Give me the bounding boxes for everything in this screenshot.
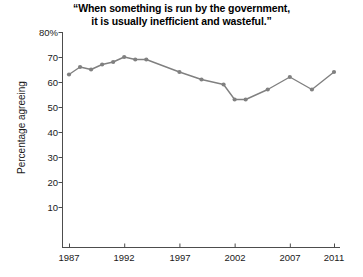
- chart-container: “When something is run by the government…: [0, 0, 363, 277]
- x-axis: [63, 244, 341, 248]
- data-point-markers: [67, 55, 336, 102]
- chart-plot-svg: [0, 0, 363, 277]
- data-point: [78, 65, 82, 69]
- data-point: [89, 67, 93, 71]
- data-point: [144, 57, 148, 61]
- data-point: [111, 60, 115, 64]
- data-point: [288, 75, 292, 79]
- data-point: [310, 87, 314, 91]
- data-point: [122, 55, 126, 59]
- data-point: [67, 72, 71, 76]
- data-point: [177, 70, 181, 74]
- data-point: [199, 77, 203, 81]
- data-series-percentage-agreeing: [67, 55, 336, 102]
- data-point: [266, 87, 270, 91]
- data-point: [133, 57, 137, 61]
- data-point: [332, 70, 336, 74]
- data-point: [244, 97, 248, 101]
- y-axis: [59, 32, 63, 248]
- data-point: [221, 82, 225, 86]
- data-point: [233, 97, 237, 101]
- data-point: [100, 62, 104, 66]
